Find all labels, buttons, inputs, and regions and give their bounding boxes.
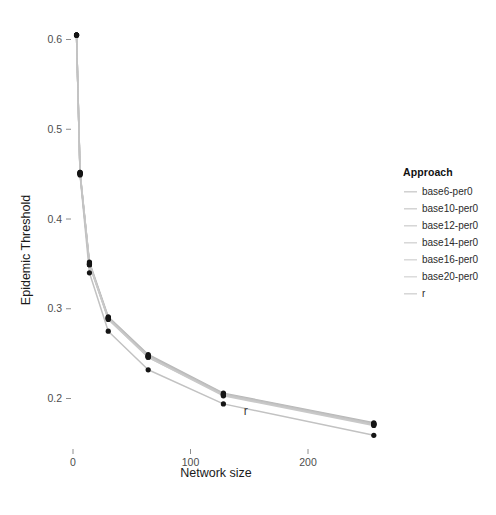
series-annotation-r: r	[244, 404, 248, 418]
legend-item[interactable]: base20-per0	[403, 268, 496, 285]
data-point-marker	[146, 355, 151, 360]
data-point-marker	[221, 401, 226, 406]
legend-item-label: base12-per0	[422, 220, 478, 231]
data-point-marker	[371, 423, 376, 428]
legend-item-label: r	[422, 288, 425, 299]
legend-item-label: base6-per0	[422, 186, 473, 197]
y-tick-label: 0.6	[47, 33, 62, 45]
legend-item[interactable]: base14-per0	[403, 234, 496, 251]
legend-item[interactable]: base16-per0	[403, 251, 496, 268]
legend-item-label: base16-per0	[422, 254, 478, 265]
data-point-marker	[106, 329, 111, 334]
data-point-marker	[106, 317, 111, 322]
legend-line-swatch-icon	[403, 271, 418, 283]
legend-item-label: base14-per0	[422, 237, 478, 248]
data-point-marker	[77, 172, 82, 177]
data-point-marker	[371, 433, 376, 438]
legend-line-swatch-icon	[403, 237, 418, 249]
legend-line-swatch-icon	[403, 186, 418, 198]
data-point-marker	[87, 262, 92, 267]
legend-item[interactable]: base6-per0	[403, 183, 496, 200]
data-point-marker	[87, 270, 92, 275]
y-tick-label: 0.2	[47, 392, 62, 404]
plot-annotations: r	[244, 404, 248, 418]
legend-title: Approach	[403, 166, 496, 178]
y-tick-label: 0.3	[47, 302, 62, 314]
legend-item[interactable]: base10-per0	[403, 200, 496, 217]
legend-item-label: base10-per0	[422, 203, 478, 214]
data-point-marker	[221, 393, 226, 398]
legend-items: base6-per0base10-per0base12-per0base14-p…	[403, 183, 496, 302]
x-tick-label: 200	[299, 456, 317, 468]
data-point-marker	[74, 32, 79, 37]
y-tick-label: 0.4	[47, 213, 62, 225]
y-axis-title: Epidemic Threshold	[19, 195, 33, 305]
x-tick-label: 0	[70, 456, 76, 468]
legend-line-swatch-icon	[403, 254, 418, 266]
y-tick-label: 0.5	[47, 123, 62, 135]
legend-line-swatch-icon	[403, 203, 418, 215]
legend-line-swatch-icon	[403, 220, 418, 232]
chart-figure: 0.20.30.40.50.6 0100200 r Network size E…	[0, 0, 496, 515]
legend: Approach base6-per0base10-per0base12-per…	[403, 166, 496, 302]
data-point-marker	[146, 367, 151, 372]
x-axis-title: Network size	[180, 466, 252, 480]
legend-line-swatch-icon	[403, 288, 418, 300]
legend-item[interactable]: base12-per0	[403, 217, 496, 234]
legend-item-label: base20-per0	[422, 271, 478, 282]
legend-item[interactable]: r	[403, 285, 496, 302]
